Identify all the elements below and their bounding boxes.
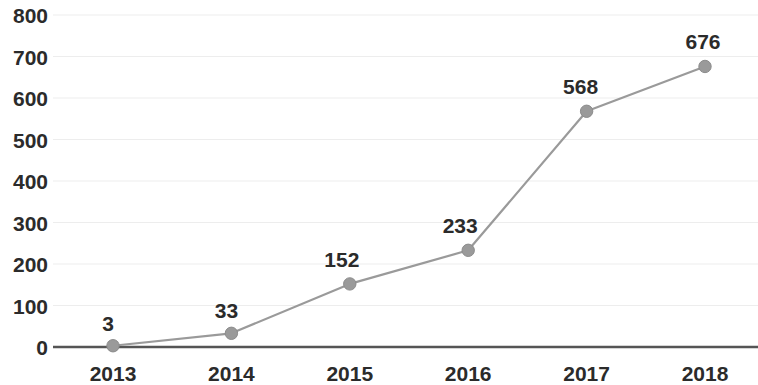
line-chart: 8007006005004003002001000 20132014201520… [0,0,758,385]
data-point-label: 3 [102,313,114,334]
data-point-labels: 333152233568676 [0,0,758,385]
data-point-label: 568 [563,76,598,97]
data-point-label: 152 [324,249,359,270]
data-point-label: 33 [215,300,238,321]
data-point-label: 676 [685,31,720,52]
data-point-label: 233 [443,215,478,236]
